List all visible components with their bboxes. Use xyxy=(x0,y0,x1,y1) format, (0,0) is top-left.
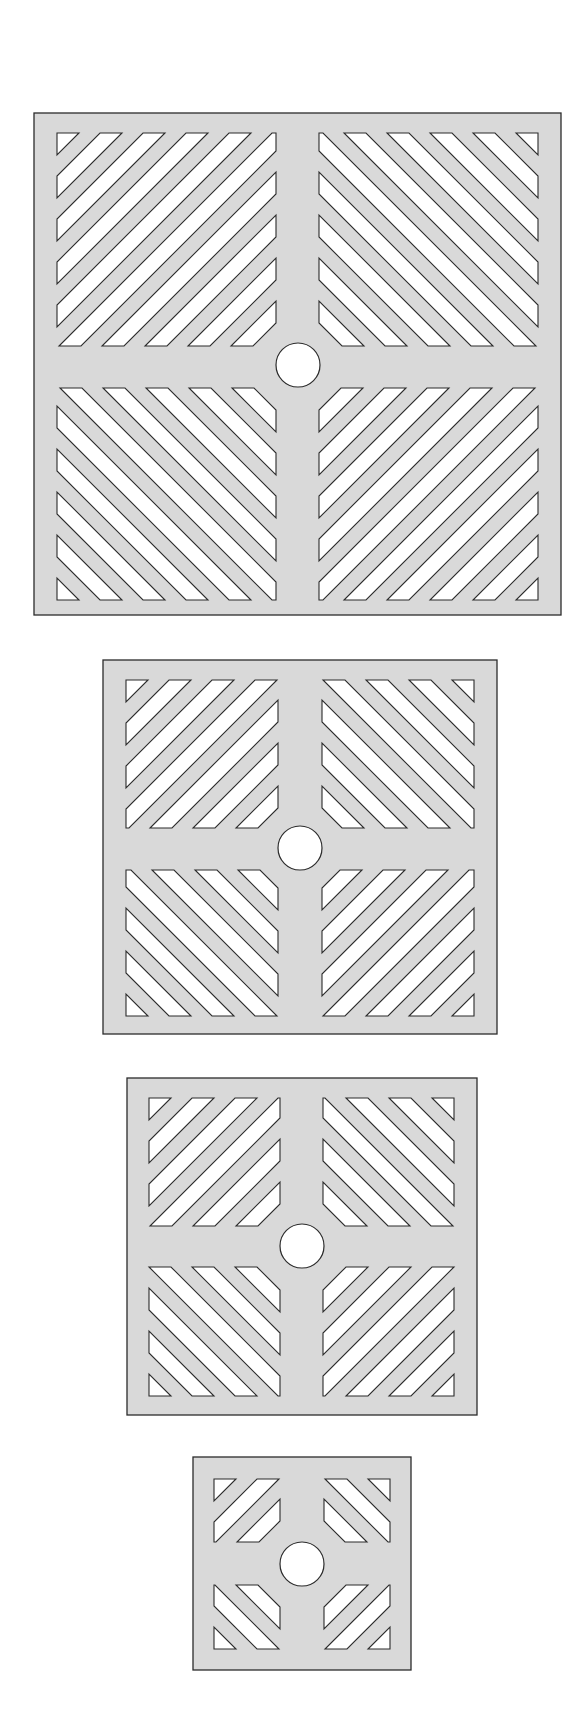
grille-medium xyxy=(103,660,497,1034)
center-hole xyxy=(280,1224,324,1268)
center-hole xyxy=(276,343,320,387)
center-hole xyxy=(280,1542,324,1586)
grille-panels xyxy=(34,113,561,1670)
grille-large xyxy=(34,113,561,615)
center-hole xyxy=(278,826,322,870)
grille-smallest xyxy=(193,1457,411,1670)
grille-small xyxy=(127,1078,477,1415)
grille-diagram xyxy=(0,0,584,1722)
